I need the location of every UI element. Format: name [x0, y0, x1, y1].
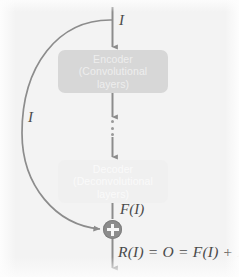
decoder-label-line2: (Deconvolutional — [73, 175, 153, 187]
encoder-label-line1: Encoder — [93, 53, 133, 65]
decoder-label-line3: layers) — [97, 188, 129, 200]
vertical-ellipsis-icon — [110, 120, 115, 136]
decoder-block: Decoder (Deconvolutional layers) — [58, 160, 168, 203]
output-equation-label: R(I) = O = F(I) + I — [118, 243, 239, 261]
ellipsis-dot — [111, 133, 114, 136]
encoder-label-line3: layers) — [97, 78, 129, 90]
summation-node — [103, 220, 122, 239]
ellipsis-dot — [111, 127, 114, 130]
input-label: I — [119, 12, 124, 29]
encoder-block: Encoder (Convolutional layers) — [58, 50, 168, 93]
residual-function-label: F(I) — [120, 201, 144, 218]
decoder-label-line1: Decoder — [93, 163, 133, 175]
figure-canvas: Encoder (Convolutional layers) Decoder (… — [0, 0, 239, 277]
skip-connection-label: I — [28, 109, 33, 126]
encoder-label-line2: (Convolutional — [79, 65, 148, 77]
plus-icon-vertical-bar — [111, 224, 114, 236]
ellipsis-dot — [111, 120, 114, 123]
